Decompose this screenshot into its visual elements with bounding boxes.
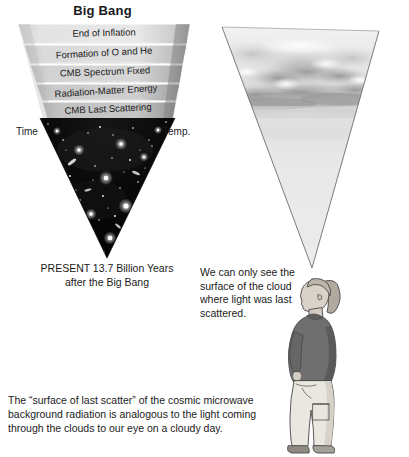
page-title: Big Bang: [0, 3, 205, 18]
ear: [318, 295, 322, 300]
bottom-caption: The “surface of last scatter” of the cos…: [8, 394, 258, 435]
present-caption: PRESENT 13.7 Billion Years after the Big…: [32, 262, 182, 289]
axis-label-time: Time: [16, 126, 38, 137]
deep-field-starfield: [35, 114, 180, 264]
figure-canvas: Big Bang End of Inflation Formation of O…: [0, 0, 409, 457]
shoe-back: [313, 446, 335, 453]
axis-label-temp: Temp.: [163, 126, 190, 137]
hand: [293, 372, 302, 381]
cloudy-sky-cone: [215, 25, 386, 273]
shoe-front: [288, 446, 310, 453]
observer-caption: We can only see the surface of the cloud…: [200, 266, 296, 320]
